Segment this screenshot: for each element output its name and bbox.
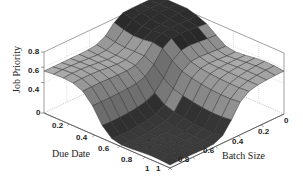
y-tick-label: 1 [156, 165, 160, 173]
x-tick-label: 0.6 [98, 145, 109, 153]
y-tick-label: 0.8 [178, 156, 189, 164]
x-tick-label: 1 [145, 165, 149, 173]
z-axis-label: Job Priority [12, 46, 22, 93]
y-tick-label: 0.2 [258, 128, 269, 136]
x-tick-label: 0.8 [121, 156, 132, 164]
y-tick-label: 0 [284, 117, 288, 125]
x-tick-label: 0.4 [76, 134, 87, 142]
z-tick-label: 0.6 [28, 67, 39, 75]
y-tick-label: 0.6 [203, 147, 214, 155]
z-tick-label: 0.4 [28, 86, 39, 94]
y-tick-label: 0.4 [232, 138, 243, 146]
x-tick-label: 0.2 [52, 122, 63, 130]
x-axis-label: Due Date [52, 149, 90, 159]
y-axis-label: Batch Size [222, 151, 265, 161]
z-tick-label: 0 [36, 109, 40, 117]
z-tick-label: 0.8 [28, 48, 39, 56]
